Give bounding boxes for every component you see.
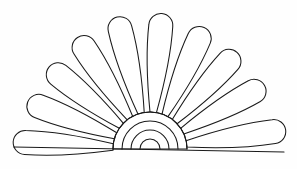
fan-illustration [0, 0, 297, 169]
artboard [0, 0, 297, 169]
